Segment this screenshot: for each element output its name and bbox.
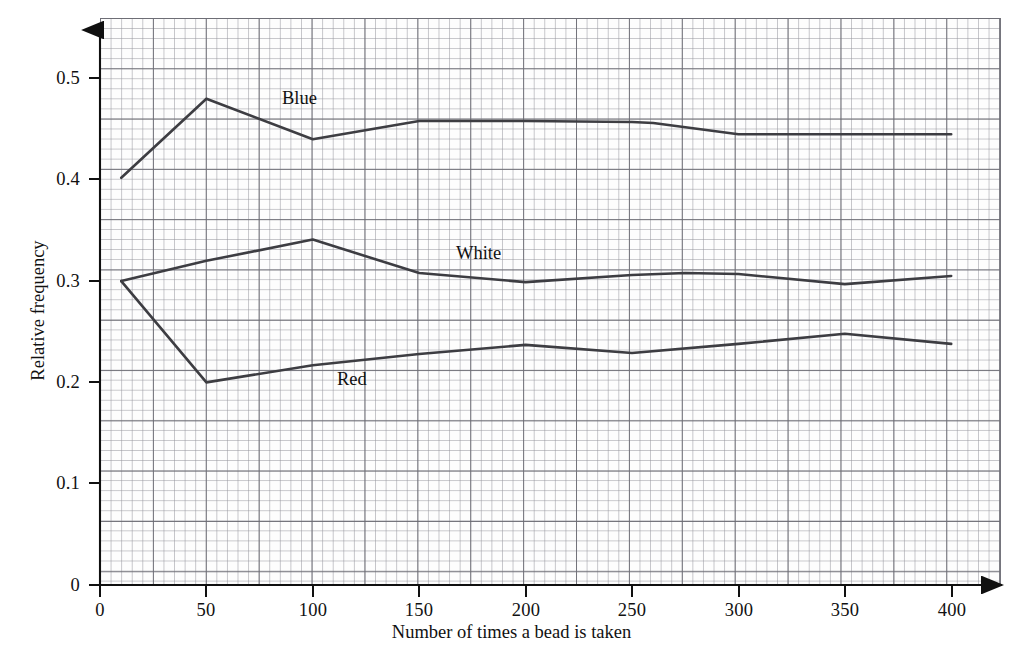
- plot-surface: [0, 0, 1023, 659]
- x-tick-label-300: 300: [709, 600, 769, 621]
- x-tick-label-50: 50: [176, 600, 236, 621]
- series-line-red: [121, 281, 951, 382]
- x-tick-label-150: 150: [389, 600, 449, 621]
- x-axis-ticks: [100, 585, 952, 597]
- x-tick-label-0: 0: [70, 600, 130, 621]
- x-tick-label-100: 100: [283, 600, 343, 621]
- x-tick-label-200: 200: [496, 600, 556, 621]
- y-axis-ticks: [89, 78, 100, 585]
- x-axis-title: Number of times a bead is taken: [0, 622, 1023, 643]
- series-line-white: [121, 240, 951, 285]
- x-tick-label-400: 400: [922, 600, 982, 621]
- y-tick-label-0.5: 0.5: [16, 68, 80, 89]
- y-axis-title: Relative frequency: [28, 211, 49, 411]
- y-tick-label-0.1: 0.1: [16, 473, 80, 494]
- data-series-group: [121, 99, 951, 383]
- series-label-red: Red: [337, 369, 367, 390]
- series-line-blue: [121, 99, 951, 178]
- x-tick-label-350: 350: [815, 600, 875, 621]
- x-tick-label-250: 250: [602, 600, 662, 621]
- series-label-white: White: [456, 243, 501, 264]
- y-tick-label-0.4: 0.4: [16, 169, 80, 190]
- series-label-blue: Blue: [282, 88, 317, 109]
- y-tick-label-0: 0: [16, 575, 80, 596]
- chart-root: 0 0.1 0.2 0.3 0.4 0.5 0 50 100 150 200 2…: [0, 0, 1023, 659]
